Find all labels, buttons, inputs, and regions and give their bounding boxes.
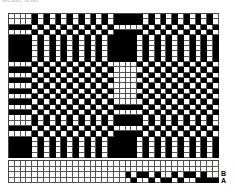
- label-a: A: [221, 177, 226, 184]
- label-b: B: [221, 170, 226, 177]
- threading-cell: [213, 178, 219, 184]
- drawdown-grid: [8, 13, 219, 158]
- caption-fragment: weave draft: [2, 0, 38, 3]
- drawdown-cell: [213, 153, 219, 158]
- threading-grid: [8, 160, 219, 183]
